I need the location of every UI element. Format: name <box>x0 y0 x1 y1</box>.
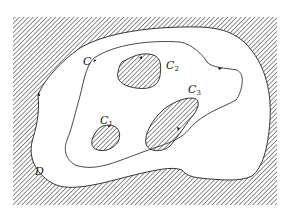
label-d: D <box>34 165 44 178</box>
region-diagram: C C2 C3 C1 D <box>0 0 289 221</box>
label-c: C <box>83 55 92 68</box>
